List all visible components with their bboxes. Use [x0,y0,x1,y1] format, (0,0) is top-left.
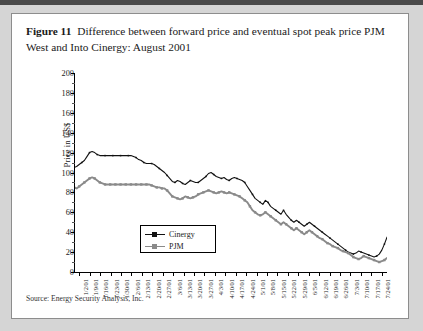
x-tick-label: 5/8/01 [269,279,276,295]
x-tick-mark [142,272,143,276]
series-marker-pjm [166,189,168,191]
y-tick-label: 0 [38,268,74,277]
x-tick-mark [340,272,341,276]
x-tick-mark [319,272,320,276]
series-marker-cinergy [236,178,238,180]
series-line-pjm [74,177,387,262]
series-marker-pjm [331,245,333,247]
x-tick-label: 5/22/01 [290,279,297,299]
series-marker-pjm [337,247,339,249]
x-tick-mark [100,272,101,276]
series-marker-pjm [285,223,287,225]
series-marker-pjm [218,191,220,193]
series-marker-pjm [306,231,308,233]
y-tick-mark [71,93,75,94]
y-tick-minor [72,222,75,223]
series-marker-pjm [280,223,282,225]
x-tick-mark [184,272,185,276]
series-marker-cinergy [368,254,370,256]
series-marker-cinergy [329,237,331,239]
x-tick-label: 4/17/01 [238,279,245,299]
series-marker-pjm [135,183,137,185]
x-tick-mark [257,272,258,276]
series-marker-pjm [181,197,183,199]
x-tick-mark [163,272,164,276]
y-tick-minor [72,143,75,144]
series-marker-pjm [197,193,199,195]
x-tick-mark [131,272,132,276]
x-tick-label: 6/19/01 [332,279,339,299]
series-marker-pjm [295,227,297,229]
series-marker-pjm [300,231,302,233]
series-marker-pjm [202,191,204,193]
series-marker-cinergy [260,202,262,204]
y-tick-label: 100 [38,168,74,177]
series-marker-cinergy [337,243,339,245]
x-tick-mark [79,272,80,276]
y-tick-label: 140 [38,128,74,137]
series-marker-pjm [363,255,365,257]
x-tick-mark [194,272,195,276]
series-marker-pjm [368,257,370,259]
series-marker-pjm [109,183,111,185]
series-marker-cinergy [143,162,145,164]
x-tick-mark [152,272,153,276]
series-marker-pjm [161,187,163,189]
series-marker-cinergy [353,253,355,255]
series-marker-pjm [78,185,80,187]
series-marker-pjm [176,197,178,199]
series-marker-cinergy [322,231,324,233]
series-marker-cinergy [120,155,122,157]
x-tick-label: 2/20/01 [155,279,162,299]
y-tick-label: 60 [38,208,74,217]
x-tick-mark [225,272,226,276]
series-marker-pjm [357,258,359,260]
series-marker-cinergy [221,178,223,180]
series-marker-pjm [99,181,101,183]
figure-caption: Difference between forward price and eve… [26,25,385,53]
series-line-cinergy [74,152,387,257]
x-tick-label: 1/2/01 [82,279,89,295]
x-tick-label: 6/12/01 [322,279,329,299]
series-marker-pjm [244,199,246,201]
series-marker-pjm [233,193,235,195]
y-tick-label: 180 [38,88,74,97]
series-marker-pjm [264,211,266,213]
series-marker-cinergy [205,176,207,178]
series-marker-pjm [254,211,256,213]
legend-label-cinergy: Cinergy [169,230,195,239]
series-marker-cinergy [151,163,153,165]
x-tick-label: 4/3/01 [217,279,224,295]
series-marker-cinergy [345,249,347,251]
series-marker-pjm [119,183,121,185]
series-marker-cinergy [190,180,192,182]
series-marker-pjm [223,191,225,193]
series-marker-cinergy [81,162,83,164]
series-marker-pjm [192,196,194,198]
series-marker-pjm [311,231,313,233]
series-marker-cinergy [306,223,308,225]
series-marker-pjm [290,227,292,229]
x-tick-mark [330,272,331,276]
series-marker-cinergy [228,180,230,182]
legend-swatch-pjm [145,246,165,247]
series-marker-cinergy [104,155,106,157]
x-tick-label: 3/13/01 [186,279,193,299]
series-marker-cinergy [252,194,254,196]
x-tick-mark [371,272,372,276]
x-tick-label: 5/1/01 [259,279,266,295]
series-marker-pjm [140,183,142,185]
series-marker-cinergy [97,154,99,156]
series-marker-pjm [342,250,344,252]
plot-region: 020406080100120140160180200 Cinergy [74,73,387,272]
series-marker-cinergy [275,210,277,212]
x-tick-label: 5/29/01 [301,279,308,299]
y-tick-mark [71,232,75,233]
chart-legend: Cinergy PJM [140,225,216,253]
y-tick-mark [71,153,75,154]
x-tick-mark [298,272,299,276]
y-tick-mark [71,173,75,174]
y-tick-mark [71,73,75,74]
series-marker-pjm [269,215,271,217]
series-marker-pjm [171,195,173,197]
